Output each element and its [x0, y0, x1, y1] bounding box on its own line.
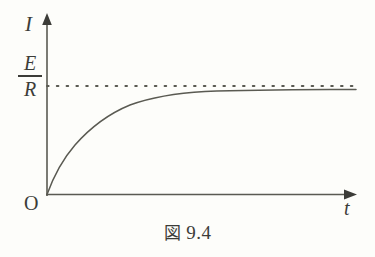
- fraction-numerator-E: E: [16, 52, 44, 74]
- origin-label: O: [24, 193, 38, 213]
- figure-caption: 図 9.4: [0, 219, 375, 244]
- current-curve: [47, 90, 356, 195]
- x-axis-label: t: [344, 198, 350, 218]
- caption-figure-number: 9.4: [186, 222, 211, 243]
- figure-container: I t O E R 図 9.4: [0, 0, 375, 257]
- fraction-bar: [18, 75, 42, 77]
- fraction-denominator-R: R: [16, 78, 44, 100]
- y-axis-arrowhead: [42, 13, 52, 25]
- asymptote-value-label: E R: [16, 52, 44, 100]
- caption-figure-symbol: 図: [164, 223, 182, 243]
- y-axis-label: I: [25, 14, 32, 35]
